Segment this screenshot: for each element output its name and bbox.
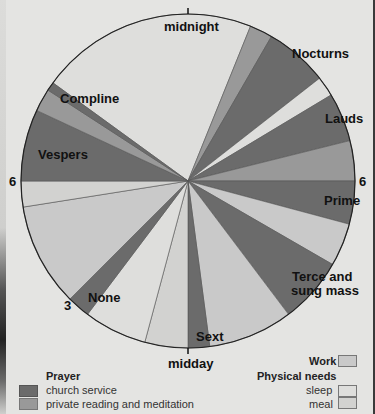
segment-label-terce-1: Terce and bbox=[292, 270, 352, 283]
pie-chart bbox=[0, 0, 375, 414]
tick-label-midday: midday bbox=[168, 356, 214, 371]
segment-label-prime: Prime bbox=[324, 193, 360, 208]
legend-swatch-sleep bbox=[338, 385, 357, 397]
chart-canvas: midnight midday 6 6 3 Nocturns Lauds Pri… bbox=[0, 0, 375, 414]
legend-label-church: church service bbox=[46, 384, 117, 396]
legend-title-physical-needs: Physical needs bbox=[257, 370, 337, 382]
segment-label-sext: Sext bbox=[196, 329, 223, 344]
legend-title-work: Work bbox=[309, 355, 336, 367]
segment-label-nocturns: Nocturns bbox=[292, 46, 349, 61]
legend-swatch-work bbox=[338, 355, 357, 367]
segment-label-terce-2: sung mass bbox=[291, 284, 359, 297]
legend-label-meal: meal bbox=[309, 398, 333, 410]
tick-label-midnight: midnight bbox=[164, 19, 219, 34]
legend-swatch-meal bbox=[338, 397, 357, 409]
legend-label-private: private reading and meditation bbox=[46, 398, 194, 410]
segment-label-lauds: Lauds bbox=[325, 111, 363, 126]
tick-label-3: 3 bbox=[64, 298, 71, 313]
legend-label-sleep: sleep bbox=[306, 384, 332, 396]
segment-label-compline: Compline bbox=[60, 91, 119, 106]
segment-label-none: None bbox=[88, 290, 121, 305]
tick-label-6-left: 6 bbox=[9, 174, 16, 189]
legend-title-prayer: Prayer bbox=[46, 370, 80, 382]
legend-swatch-private bbox=[19, 398, 38, 410]
tick-label-6-right: 6 bbox=[359, 174, 366, 189]
legend-swatch-church bbox=[19, 385, 38, 397]
segment-label-vespers: Vespers bbox=[38, 147, 88, 162]
